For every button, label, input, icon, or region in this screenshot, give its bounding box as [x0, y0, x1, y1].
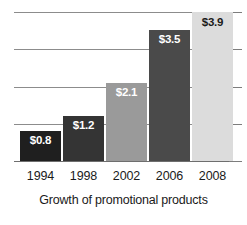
bar-1998[interactable]: $1.2	[63, 116, 104, 161]
bar-2006[interactable]: $3.5	[149, 30, 190, 161]
bar-value-2006: $3.5	[149, 33, 190, 46]
bar-2008[interactable]: $3.9	[192, 12, 233, 161]
bar-value-1998: $1.2	[63, 119, 104, 132]
x-label-2002: 2002	[106, 168, 147, 184]
bar-value-1994: $0.8	[20, 134, 61, 147]
x-label-1994: 1994	[20, 168, 61, 184]
bar-2002[interactable]: $2.1	[106, 83, 147, 161]
chart-caption: Growth of promotional products	[0, 192, 247, 208]
bar-series: $0.8 $1.2 $2.1 $3.5 $3.9	[0, 0, 247, 165]
x-label-1998: 1998	[63, 168, 104, 184]
bar-value-2008: $3.9	[192, 16, 233, 29]
x-label-2006: 2006	[149, 168, 190, 184]
bar-chart-figure: $0.8 $1.2 $2.1 $3.5 $3.9 1994 1998 2002 …	[0, 0, 247, 225]
bar-1994[interactable]: $0.8	[20, 131, 61, 161]
x-axis-labels: 1994 1998 2002 2006 2008	[0, 168, 247, 186]
bar-value-2002: $2.1	[106, 86, 147, 99]
x-label-2008: 2008	[192, 168, 233, 184]
